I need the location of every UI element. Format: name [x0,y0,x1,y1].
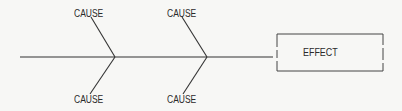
branch-bottom-1 [90,57,115,94]
branch-bottom-2 [183,57,207,94]
branch-top-2 [182,17,207,57]
branch-top-1 [91,17,115,57]
fishbone-diagram: CAUSE CAUSE CAUSE CAUSE EFFECT [0,0,402,111]
cause-label-top-2: CAUSE [167,8,196,19]
diagram-lines [0,0,402,111]
cause-label-top-1: CAUSE [74,8,103,19]
effect-label: EFFECT [303,46,338,58]
cause-label-bottom-1: CAUSE [74,94,103,105]
cause-label-bottom-2: CAUSE [167,94,196,105]
